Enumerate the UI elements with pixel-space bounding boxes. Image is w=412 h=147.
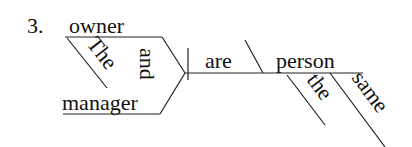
modifier-same: same [347, 66, 394, 117]
subject-noun-owner: owner [69, 13, 125, 38]
predicate-noun-person: person [276, 48, 335, 73]
subject-noun-manager: manager [62, 90, 138, 115]
modifier-the-subject: The [82, 32, 123, 74]
conjunction-and: and [135, 48, 160, 80]
subject-fork-lower [160, 73, 185, 114]
exercise-number: 3. [27, 13, 44, 38]
sentence-diagram: 3. owner manager The and are person the … [0, 0, 412, 147]
verb-are: are [205, 48, 232, 73]
subject-fork-upper [162, 37, 185, 73]
predicate-divider [245, 40, 263, 73]
